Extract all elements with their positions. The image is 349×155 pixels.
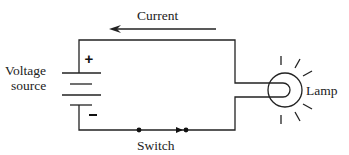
lamp-label: Lamp [306,83,338,98]
switch-arrow-icon [176,127,183,133]
lamp-filament [283,83,290,97]
minus-sign [89,114,97,116]
switch-label: Switch [137,138,175,153]
top-wire [79,40,283,83]
voltage-source [62,73,101,105]
switch-contact-left [137,128,142,133]
current-label: Current [137,8,178,23]
source-label: source [11,78,46,93]
switch-contact-right [184,128,189,133]
lamp-bulb-icon [268,73,302,107]
plus-sign: + [85,50,94,67]
voltage-label: Voltage [5,63,46,78]
wires [79,40,283,130]
circuit-diagram: Current + Voltage source Switch Lamp [0,0,349,155]
current-arrow [109,25,216,33]
bottom-wire [79,97,283,130]
